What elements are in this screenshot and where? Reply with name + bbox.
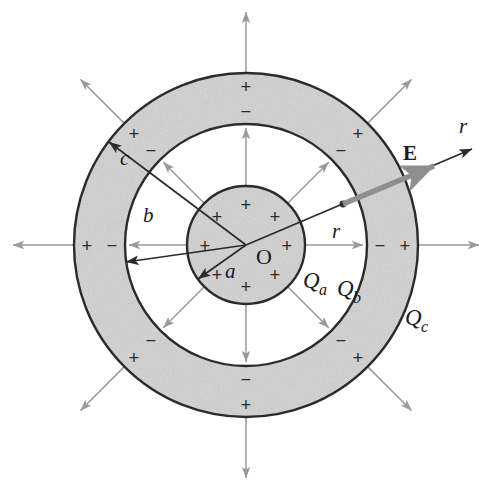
- charge-sign-inner-270: +: [241, 276, 252, 297]
- label-E-field: E: [403, 141, 417, 165]
- label-a: a: [225, 259, 236, 283]
- charge-sign-shell-out-315: +: [353, 347, 364, 368]
- gauss-law-diagram: + + + + + + + + − − − − − − − − + + + + …: [0, 0, 497, 490]
- label-Qc-main: Q: [405, 305, 422, 330]
- charge-sign-shell-in-135: −: [146, 140, 157, 161]
- charge-sign-shell-in-270: −: [241, 369, 252, 390]
- charge-sign-shell-out-225: +: [129, 347, 140, 368]
- charge-sign-shell-in-0: −: [375, 235, 386, 256]
- label-Qc-sub: c: [421, 318, 428, 335]
- charge-sign-shell-out-180: +: [82, 235, 93, 256]
- field-ray-outer-315: [368, 367, 412, 411]
- label-origin-O: O: [256, 244, 272, 269]
- label-Qc: Q c: [405, 305, 428, 335]
- charge-sign-shell-in-225: −: [146, 330, 157, 351]
- label-Qa-sub: a: [319, 281, 327, 298]
- label-c: c: [120, 146, 130, 170]
- charge-sign-inner-180: +: [200, 235, 211, 256]
- charge-sign-shell-out-270: +: [241, 394, 252, 415]
- field-ray-outer-45: [368, 80, 412, 124]
- charge-sign-shell-out-135: +: [129, 123, 140, 144]
- charge-sign-shell-in-315: −: [336, 330, 347, 351]
- physics-figure: + + + + + + + + − − − − − − − − + + + + …: [0, 0, 497, 490]
- label-r-outer: r: [459, 114, 468, 138]
- charge-sign-shell-in-180: −: [107, 235, 118, 256]
- charge-sign-inner-225: +: [212, 264, 223, 285]
- label-b: b: [143, 203, 154, 227]
- label-Qb-sub: b: [353, 289, 361, 306]
- charge-sign-shell-in-90: −: [241, 101, 252, 122]
- charge-sign-shell-out-45: +: [353, 123, 364, 144]
- label-Qb-main: Q: [337, 276, 354, 301]
- label-r-inner: r: [332, 219, 341, 243]
- field-ray-outer-135: [81, 80, 125, 124]
- charge-sign-shell-out-0: +: [400, 235, 411, 256]
- field-ray-outer-225: [81, 367, 125, 411]
- charge-sign-shell-in-45: −: [336, 140, 347, 161]
- charge-sign-inner-45: +: [270, 206, 281, 227]
- label-Qa-main: Q: [303, 268, 320, 293]
- charge-sign-shell-out-90: +: [241, 76, 252, 97]
- charge-sign-inner-90: +: [241, 194, 252, 215]
- charge-sign-inner-0: +: [282, 235, 293, 256]
